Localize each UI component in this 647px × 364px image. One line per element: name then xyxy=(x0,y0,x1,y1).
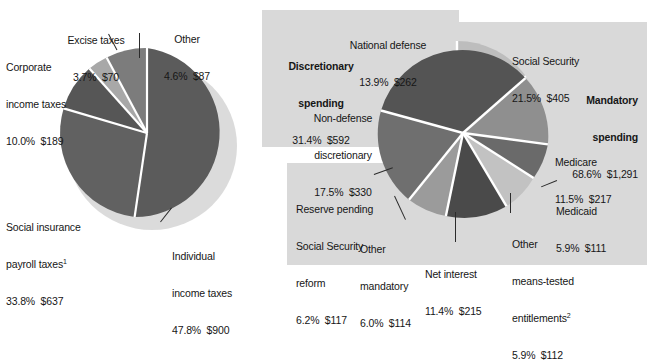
label-social-insurance-payroll-taxes: Social insurance payroll taxes1 33.8% $6… xyxy=(6,196,131,332)
leader-net-interest xyxy=(455,212,456,242)
label-other-means-tested-entitlements: Other means-tested entitlements2 5.9% $1… xyxy=(512,213,608,364)
footnote-marker-1: 1 xyxy=(63,258,67,265)
leader-other-means-tested xyxy=(510,193,511,213)
label-other-revenue: Other 4.6% $87 xyxy=(148,8,226,107)
label-corporate-income-taxes: Corporate income taxes 10.0% $189 xyxy=(6,36,116,172)
label-reserve-pending-ss-reform: Reserve pending Social Security reform 6… xyxy=(296,178,406,352)
footnote-marker-2: 2 xyxy=(567,312,571,319)
label-individual-income-taxes: Individual income taxes 47.8% $900 xyxy=(172,225,262,361)
